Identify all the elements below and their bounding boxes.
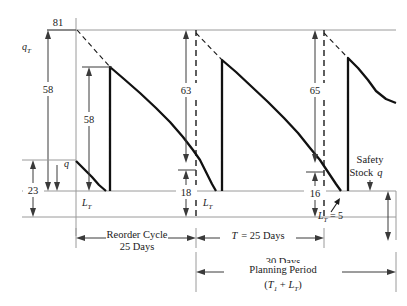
safety-stock-note: Safety Stockq bbox=[349, 154, 391, 241]
cycle3-arrow16-head-top bbox=[312, 172, 318, 181]
period-T-arrowhead-right bbox=[315, 235, 324, 241]
label-18: 18 bbox=[181, 187, 192, 198]
arrow-58-head-top bbox=[45, 30, 51, 39]
planning-arrowhead-right bbox=[387, 269, 396, 275]
safety-stock-right-head-top bbox=[385, 191, 391, 200]
reorder-cycle-arrowhead-right bbox=[187, 235, 196, 241]
label-65: 65 bbox=[310, 85, 321, 96]
arrow-23-head-top bbox=[30, 160, 36, 169]
curve-segment-cycle2 bbox=[222, 60, 341, 191]
planning-line3: (T1 + LT) bbox=[264, 279, 302, 293]
inventory-level-curve bbox=[76, 58, 396, 191]
label-lead-time-cycle1: LT bbox=[81, 197, 93, 211]
cycle2-arrow18-head-bottom bbox=[183, 208, 189, 217]
safety-stock-line1: Safety bbox=[357, 154, 385, 165]
span-reorder-cycle: Reorder Cycle 25 Days bbox=[76, 228, 196, 252]
reorder-cycle-arrowhead-left bbox=[76, 235, 85, 241]
curve-segment-initial bbox=[76, 161, 106, 191]
planning-line2: Planning Period bbox=[249, 264, 317, 275]
safety-stock-right-head-bottom bbox=[385, 232, 391, 241]
label-q-left: q bbox=[64, 158, 69, 169]
dashed-slope-cycle2 bbox=[196, 33, 222, 60]
cycle2-arrow18-head-top bbox=[183, 170, 189, 179]
arrow-58-head-bottom bbox=[45, 182, 51, 191]
cycle-2-annotations: 63 18 LT bbox=[176, 30, 214, 217]
cycle1-arrow-head-bottom bbox=[86, 182, 92, 191]
cycle3-arrow65-head-bottom bbox=[312, 154, 318, 163]
arrow-23-head-bottom bbox=[30, 208, 36, 217]
label-lead-time-cycle3: LT = 5 bbox=[317, 210, 343, 224]
planning-arrowhead-left bbox=[196, 269, 205, 275]
curve-segment-cycle1 bbox=[110, 67, 216, 191]
label-58-cycle1: 58 bbox=[84, 114, 95, 125]
safety-stock-line2: Stockq bbox=[349, 167, 382, 178]
left-scale-annotations: 81 qT 58 23 q bbox=[22, 17, 76, 217]
cycle-1-annotations: 58 LT bbox=[79, 67, 112, 211]
label-81: 81 bbox=[53, 17, 64, 28]
label-16: 16 bbox=[310, 188, 321, 199]
inventory-sawtooth-figure: 81 qT 58 23 q 58 LT bbox=[0, 0, 407, 306]
y-axis-symbol: qT bbox=[22, 41, 32, 55]
span-period-T: T= 25 Days bbox=[196, 228, 324, 248]
cycle1-arrow-head-top bbox=[86, 67, 92, 76]
label-lead-time-cycle2: LT bbox=[202, 197, 214, 211]
cycle-3-annotations: 65 16 LT = 5 bbox=[304, 30, 343, 224]
cycle2-arrow63-head-top bbox=[183, 30, 189, 39]
cycle2-arrow63-head-bottom bbox=[183, 154, 189, 163]
dashed-slope-cycle1 bbox=[77, 30, 110, 67]
label-63: 63 bbox=[181, 85, 192, 96]
dashed-slope-cycle3 bbox=[324, 33, 348, 58]
label-58-left: 58 bbox=[43, 84, 54, 95]
span-planning-period: 30 Days Planning Period (T1 + LT) bbox=[196, 252, 396, 293]
safety-stock-arrow-head bbox=[367, 182, 373, 191]
label-23: 23 bbox=[28, 185, 39, 196]
reorder-cycle-line2: 25 Days bbox=[120, 241, 155, 252]
figure-canvas: 81 qT 58 23 q 58 LT bbox=[0, 0, 407, 306]
cycle3-arrow65-head-top bbox=[312, 30, 318, 39]
arrow-q-head bbox=[54, 182, 60, 191]
reorder-cycle-line1: Reorder Cycle bbox=[107, 229, 168, 240]
period-T-arrowhead-left bbox=[196, 235, 205, 241]
